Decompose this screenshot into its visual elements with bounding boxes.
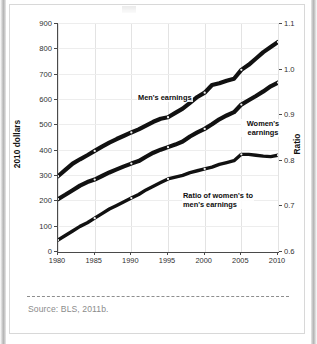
- y-axis-tick-label-right: 0.8: [284, 155, 295, 164]
- series-data-marker: [240, 69, 242, 71]
- gridline-vertical: [278, 23, 279, 252]
- x-axis-tick-label: 1990: [122, 256, 138, 265]
- y-axis-tick-label-left: 0: [48, 247, 52, 256]
- series-data-marker: [204, 168, 206, 170]
- x-axis-tick-label: 2005: [232, 256, 248, 265]
- series-data-marker: [130, 197, 132, 199]
- series-data-marker: [167, 146, 169, 148]
- y-axis-tick-mark-right: [279, 205, 282, 206]
- y-axis-tick-label-right: 0.6: [284, 247, 295, 256]
- y-axis-tick-label-right: 1.1: [284, 19, 295, 28]
- series-data-marker: [130, 162, 132, 164]
- series-data-marker: [94, 150, 96, 152]
- series-data-marker: [204, 128, 206, 130]
- y-axis-tick-label-left: 300: [39, 171, 52, 180]
- x-axis-tick-label: 1985: [85, 256, 101, 265]
- series-data-marker: [167, 178, 169, 180]
- y-axis-tick-label-left: 600: [39, 95, 52, 104]
- footer-divider: [27, 296, 289, 297]
- y-axis-tick-label-left: 400: [39, 145, 52, 154]
- y-axis-tick-label-left: 100: [39, 221, 52, 230]
- y-axis-tick-label-right: 1.0: [284, 64, 295, 73]
- series-lines: [58, 23, 278, 251]
- y-axis-tick-label-left: 500: [39, 120, 52, 129]
- y-axis-tick-label-left: 700: [39, 69, 52, 78]
- series-data-marker: [240, 103, 242, 105]
- source-note: Source: BLS, 2011b.: [28, 304, 109, 314]
- series-label-ratio: Ratio of women's to men's earnings: [182, 191, 254, 209]
- y-axis-tick-mark-right: [279, 114, 282, 115]
- y-axis-tick-label-left: 800: [39, 44, 52, 53]
- page-edge-right: [311, 0, 317, 344]
- y-axis-tick-label-right: 0.7: [284, 201, 295, 210]
- x-axis-tick-label: 2010: [269, 256, 285, 265]
- y-axis-tick-label-left: 200: [39, 196, 52, 205]
- series-line: [58, 42, 278, 176]
- y-axis-title-left: 2010 dollars: [12, 120, 22, 168]
- y-axis-tick-mark-right: [279, 160, 282, 161]
- y-axis-tick-mark-right: [279, 23, 282, 24]
- series-label-mens-earnings: Men's earnings: [137, 93, 193, 102]
- page-edge-left: [0, 0, 6, 344]
- x-axis-tick-label: 2000: [195, 256, 211, 265]
- x-axis-tick-label: 1980: [49, 256, 65, 265]
- series-data-marker: [240, 153, 242, 155]
- series-data-marker: [94, 217, 96, 219]
- y-axis-tick-label-right: 0.9: [284, 110, 295, 119]
- series-data-marker: [204, 92, 206, 94]
- line-chart: 2010 dollars Ratio 010020030040050060070…: [10, 5, 306, 283]
- y-axis-tick-mark-right: [279, 251, 282, 252]
- series-data-marker: [130, 131, 132, 133]
- plot-area: [57, 23, 279, 253]
- y-axis-tick-mark-right: [279, 69, 282, 70]
- figure-card: 2010 dollars Ratio 010020030040050060070…: [9, 4, 305, 334]
- y-axis-tick-label-left: 900: [39, 19, 52, 28]
- series-data-marker: [94, 178, 96, 180]
- figure-page: 2010 dollars Ratio 010020030040050060070…: [0, 0, 317, 344]
- series-label-womens-earnings: Women's earnings: [241, 119, 285, 137]
- series-data-marker: [167, 116, 169, 118]
- y-axis-title-right: Ratio: [292, 134, 302, 155]
- x-axis-tick-label: 1995: [159, 256, 175, 265]
